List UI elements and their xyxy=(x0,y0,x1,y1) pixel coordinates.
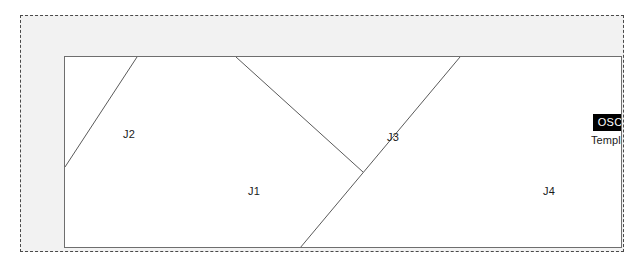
region-label-j2: J2 xyxy=(123,128,135,140)
template-name-label: Template J xyxy=(581,134,622,146)
diagram-root: J2 J1 J3 J4 OSCAR Template J xyxy=(0,0,644,271)
outer-dashed-boundary: J2 J1 J3 J4 OSCAR Template J xyxy=(20,15,624,252)
template-rectangle: J2 J1 J3 J4 OSCAR Template J xyxy=(64,56,622,248)
j3-left-divider-line xyxy=(236,57,363,172)
region-label-j4: J4 xyxy=(543,185,555,197)
template-badge-block: OSCAR Template J xyxy=(581,112,622,146)
oscar-brand-badge: OSCAR xyxy=(593,114,622,131)
j2-divider-line xyxy=(65,57,137,167)
partition-lines-svg xyxy=(65,57,622,248)
region-label-j3: J3 xyxy=(387,131,399,143)
j4-divider-line xyxy=(300,57,460,248)
region-label-j1: J1 xyxy=(248,185,260,197)
